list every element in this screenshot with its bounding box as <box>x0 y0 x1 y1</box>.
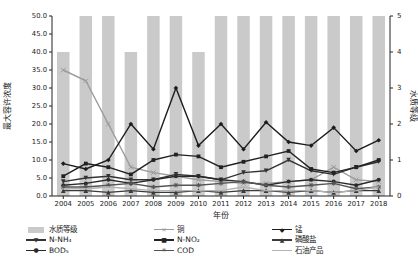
legend-label: N-NH₄ <box>49 235 72 244</box>
right-tick-label: 5 <box>397 12 401 20</box>
left-axis-title: 最大容许浓度 <box>2 82 12 130</box>
left-tick-label: 0.0 <box>36 192 47 200</box>
x-tick-label: 2015 <box>302 200 319 208</box>
left-tick-label: 15.0 <box>32 138 47 146</box>
left-tick-label: 25.0 <box>32 102 47 110</box>
chart-figure: 0.05.010.015.020.025.030.035.040.045.050… <box>0 0 418 268</box>
legend-item-3: ▼N-NH₄ <box>26 235 154 244</box>
legend-label: 水质等级 <box>49 225 77 234</box>
bar-2012 <box>237 16 250 196</box>
left-tick-label: 45.0 <box>32 30 47 38</box>
legend-line-swatch <box>272 246 292 254</box>
x-tick-label: 2016 <box>325 200 342 208</box>
legend-item-0: 水质等级 <box>26 225 154 234</box>
x-tick-label: 2009 <box>167 200 184 208</box>
legend-label: 磷酸盐 <box>295 235 316 244</box>
legend-line-swatch: ■ <box>154 236 174 244</box>
x-tick-label: 2017 <box>348 200 365 208</box>
legend-line-swatch: ✕ <box>154 226 174 234</box>
x-tick-label: 2010 <box>190 200 207 208</box>
legend-label: N-NO₂ <box>177 235 200 244</box>
right-tick-label: 2 <box>397 120 401 128</box>
legend-item-8: 石油产品 <box>272 246 392 255</box>
x-tick-label: 2004 <box>55 200 72 208</box>
left-tick-label: 30.0 <box>32 84 47 92</box>
left-tick-label: 40.0 <box>32 48 47 56</box>
left-tick-label: 35.0 <box>32 66 47 74</box>
legend-marker-asterisk-icon: ✳ <box>161 247 166 253</box>
legend-item-7: ✳COD <box>154 246 272 255</box>
legend-label: 石油产品 <box>295 246 323 255</box>
legend-item-2: ◆锰 <box>272 225 392 234</box>
x-tick-label: 2014 <box>280 200 297 208</box>
legend-marker-circle-icon: ● <box>33 247 38 253</box>
bar-2018 <box>372 16 385 196</box>
right-tick-label: 1 <box>397 156 401 164</box>
legend-item-4: ■N-NO₂ <box>154 235 272 244</box>
legend-item-5: ▲磷酸盐 <box>272 235 392 244</box>
x-tick-label: 2011 <box>212 200 229 208</box>
chart-legend: 水质等级✕铜◆锰▼N-NH₄■N-NO₂▲磷酸盐●BOD₅✳COD石油产品 <box>0 225 418 255</box>
right-axis-title: 水质等级 <box>409 90 418 122</box>
x-tick-label: 2006 <box>100 200 117 208</box>
legend-marker-triangle-down-icon: ▼ <box>34 237 39 243</box>
x-tick-label: 2018 <box>370 200 387 208</box>
x-tick-label: 2013 <box>257 200 274 208</box>
legend-line-swatch: ◆ <box>272 226 292 234</box>
legend-label: 锰 <box>295 225 302 234</box>
bar-2008 <box>147 16 160 196</box>
legend-item-1: ✕铜 <box>154 225 272 234</box>
legend-label: 铜 <box>177 225 184 234</box>
left-tick-label: 10.0 <box>32 156 47 164</box>
right-tick-label: 0 <box>397 192 401 200</box>
legend-marker-x-icon: ✕ <box>161 227 166 233</box>
legend-marker-diamond-icon: ◆ <box>280 227 285 233</box>
legend-marker-square-icon: ■ <box>161 237 167 243</box>
x-tick-label: 2012 <box>235 200 252 208</box>
plot-area: 0.05.010.015.020.025.030.035.040.045.050… <box>32 12 402 208</box>
legend-bar-swatch <box>26 226 46 234</box>
left-tick-label: 20.0 <box>32 120 47 128</box>
x-tick-label: 2007 <box>122 200 139 208</box>
legend-label: COD <box>177 246 194 255</box>
left-tick-label: 50.0 <box>32 12 47 20</box>
x-tick-label: 2008 <box>145 200 162 208</box>
left-tick-label: 5.0 <box>36 174 47 182</box>
legend-line-swatch: ▲ <box>272 236 292 244</box>
x-tick-label: 2005 <box>77 200 94 208</box>
legend-item-6: ●BOD₅ <box>26 246 154 255</box>
legend-marker-triangle-up-icon: ▲ <box>280 237 285 243</box>
bar-2009 <box>170 16 183 196</box>
x-axis-title: 年份 <box>213 210 229 220</box>
legend-line-swatch: ● <box>26 246 46 254</box>
legend-line-swatch: ▼ <box>26 236 46 244</box>
right-tick-label: 4 <box>397 48 402 56</box>
bar-2014 <box>282 16 295 196</box>
right-tick-label: 3 <box>397 84 401 92</box>
legend-label: BOD₅ <box>49 246 69 255</box>
legend-line-swatch: ✳ <box>154 246 174 254</box>
